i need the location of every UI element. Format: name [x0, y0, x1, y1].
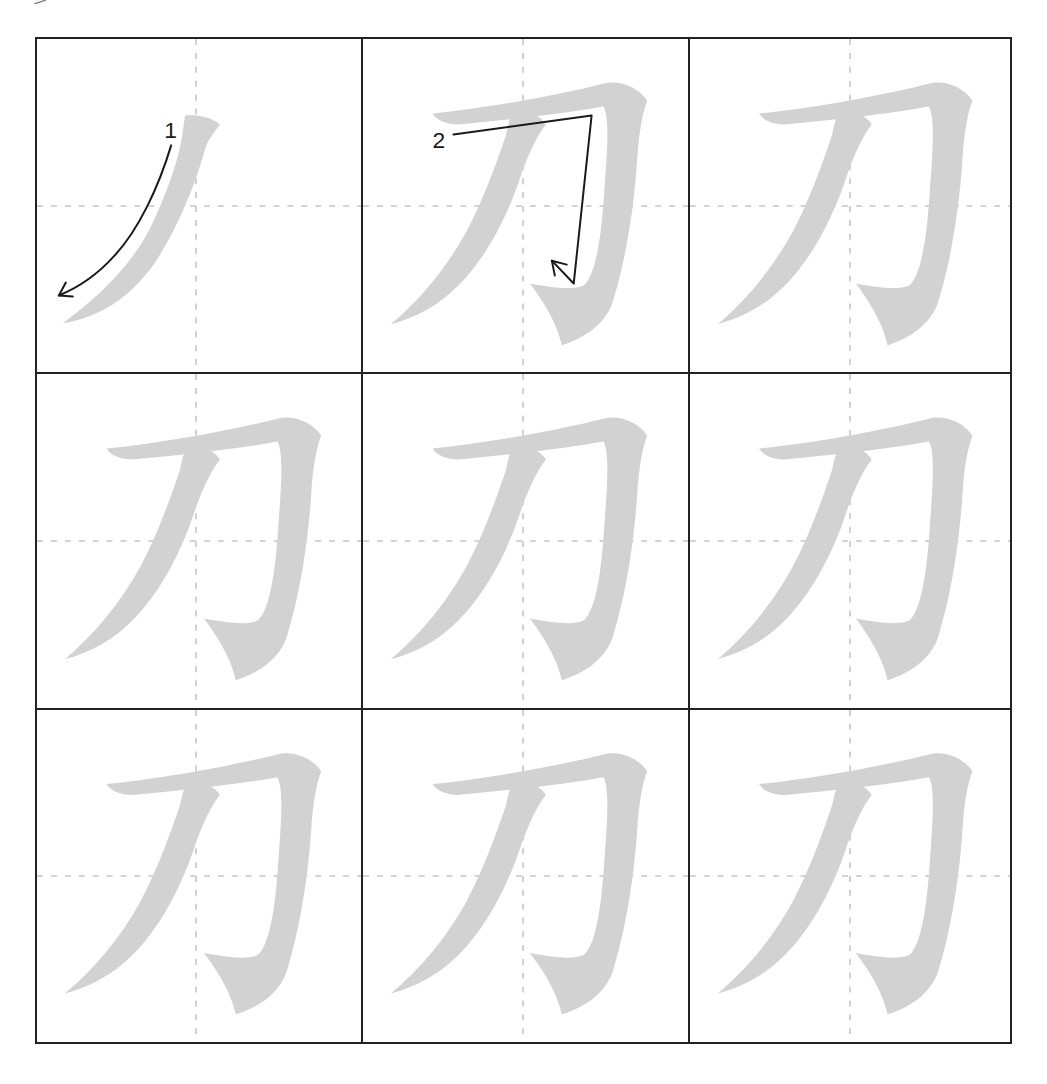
- character-glyph: [718, 82, 973, 345]
- character-diagram: [37, 374, 361, 708]
- stroke-number-label: 1: [164, 117, 177, 143]
- corner-mark: [34, 0, 48, 4]
- character-diagram: [690, 710, 1010, 1042]
- character-diagram: [690, 39, 1010, 372]
- practice-cell-full-character: [690, 710, 1010, 1042]
- character-glyph: [65, 417, 321, 680]
- practice-cell-full-character: [690, 374, 1010, 710]
- practice-sheet: 1 2: [35, 37, 1012, 1044]
- practice-cell-stroke-1: 1: [37, 39, 363, 374]
- practice-grid: 1 2: [37, 39, 1010, 1042]
- character-glyph: [391, 417, 647, 680]
- practice-cell-stroke-2: 2: [363, 39, 690, 374]
- character-glyph: [718, 753, 973, 1014]
- character-glyph: [391, 82, 647, 345]
- practice-cell-full-character: [37, 710, 363, 1042]
- practice-cell-full-character: [363, 710, 690, 1042]
- character-glyph: [718, 417, 973, 680]
- stroke-2-diagram: 2: [363, 39, 688, 372]
- character-diagram: [363, 374, 688, 708]
- practice-cell-full-character: [690, 39, 1010, 374]
- practice-cell-full-character: [37, 374, 363, 710]
- character-diagram: [363, 710, 688, 1042]
- character-diagram: [690, 374, 1010, 708]
- character-glyph: [65, 753, 321, 1014]
- stroke-number-label: 2: [433, 127, 446, 153]
- character-diagram: [37, 710, 361, 1042]
- practice-cell-full-character: [363, 374, 690, 710]
- character-glyph: [391, 753, 647, 1014]
- stroke-1-diagram: 1: [37, 39, 361, 372]
